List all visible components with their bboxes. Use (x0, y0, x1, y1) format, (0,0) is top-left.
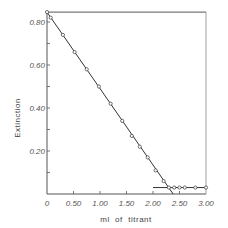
data-point-marker (178, 186, 181, 189)
data-point-marker (109, 102, 112, 105)
y-tick-label: 0.60 (29, 61, 45, 70)
data-point-marker (162, 180, 165, 183)
data-points (45, 11, 207, 190)
data-point-marker (121, 119, 124, 122)
x-tick-label: 2.00 (144, 199, 161, 208)
data-point-marker (45, 11, 48, 14)
titration-chart: 00.501.001.502.002.503.00 0.200.400.600.… (0, 0, 228, 228)
data-point-marker (97, 85, 100, 88)
data-point-marker (194, 186, 197, 189)
y-tick-label: 0.80 (29, 18, 45, 27)
data-point-marker (154, 169, 157, 172)
y-tick-label: 0.40 (29, 104, 45, 113)
data-point-marker (173, 186, 176, 189)
data-point-marker (167, 186, 170, 189)
x-tick-label: 3.00 (198, 199, 214, 208)
x-tick-label: 2.50 (171, 199, 188, 208)
data-point-marker (85, 68, 88, 71)
x-tick-label: 1.50 (119, 199, 135, 208)
data-point-marker (183, 186, 186, 189)
data-point-marker (61, 33, 64, 36)
data-point-marker (204, 186, 207, 189)
data-point-marker (146, 156, 149, 159)
data-point-marker (49, 16, 52, 19)
data-point-marker (130, 134, 133, 137)
y-tick-label: 0.20 (29, 147, 45, 156)
fit-lines (47, 12, 206, 194)
data-point-marker (73, 51, 76, 54)
data-point-marker (138, 145, 141, 148)
x-axis-label: ml of titrant (100, 215, 152, 224)
x-tick-label: 0 (45, 199, 50, 208)
x-tick-label: 0.50 (66, 199, 82, 208)
y-axis-label: Extinction (13, 98, 22, 138)
axes (47, 12, 206, 194)
x-tick-label: 1.00 (92, 199, 108, 208)
